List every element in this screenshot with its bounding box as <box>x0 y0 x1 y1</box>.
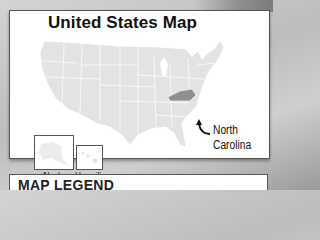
alaska-shape <box>35 136 73 169</box>
map-legend-panel: MAP LEGEND <box>9 174 268 190</box>
hawaii-shape <box>77 146 102 169</box>
map-panel: United States Map <box>9 10 270 159</box>
hawaii-inset <box>76 145 103 170</box>
pointer-arrow-icon <box>195 118 213 138</box>
north-carolina-label: North Carolina <box>213 123 251 153</box>
map-title: United States Map <box>10 13 269 33</box>
legend-title: MAP LEGEND <box>18 177 114 190</box>
alaska-inset <box>34 135 74 170</box>
